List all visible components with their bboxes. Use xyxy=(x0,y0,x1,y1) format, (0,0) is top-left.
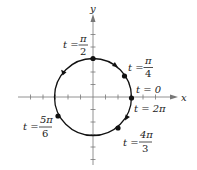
label-denominator: 3 xyxy=(142,143,148,154)
label-t-pi-over-2: t = π 2 xyxy=(63,33,88,57)
x-axis-label: x xyxy=(181,92,187,103)
parametric-circle-figure: x y t = π 2 t = π 4 t = 0 t = 2π t = 5π … xyxy=(0,0,197,170)
x-axis-arrow-icon xyxy=(170,95,178,100)
label-denominator: 2 xyxy=(80,46,86,57)
label-numerator: π xyxy=(79,33,87,44)
label-numerator: 5π xyxy=(40,114,53,125)
label-t-2pi: t = 2π xyxy=(134,103,166,114)
label-t-4pi-over-3: t = 4π 3 xyxy=(123,129,153,154)
label-prefix: t = xyxy=(123,137,139,148)
label-prefix: t = xyxy=(23,121,39,132)
direction-arrow-icon xyxy=(59,68,66,75)
point-t-pi-over-2 xyxy=(90,56,95,61)
point-t-pi-over-4 xyxy=(122,73,127,78)
point-t-0 xyxy=(129,95,134,100)
y-axis-label: y xyxy=(89,3,96,14)
y-axis-arrow-icon xyxy=(91,14,96,22)
label-t-5pi-over-6: t = 5π 6 xyxy=(23,114,53,139)
label-denominator: 4 xyxy=(145,68,151,79)
label-numerator: 4π xyxy=(139,129,153,140)
label-prefix: t = xyxy=(63,39,79,50)
point-t-5pi-over-6 xyxy=(55,113,60,118)
label-numerator: π xyxy=(144,55,152,66)
label-t-0: t = 0 xyxy=(136,84,162,95)
point-t-4pi-over-3 xyxy=(115,125,120,130)
label-denominator: 6 xyxy=(42,128,48,139)
label-t-pi-over-4: t = π 4 xyxy=(128,55,153,79)
label-prefix: t = xyxy=(128,62,144,73)
